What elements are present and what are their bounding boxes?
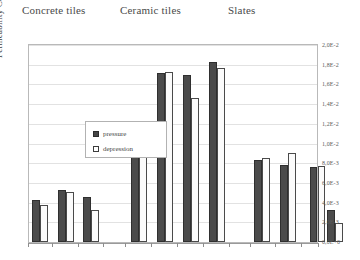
y-axis-title: Permeability Coefficient Φ (0, 0, 4, 58)
bar-pressure (183, 75, 191, 242)
x-axis-tick (203, 243, 204, 247)
legend-swatch-pressure (93, 131, 99, 137)
bar-depression (66, 192, 74, 242)
bar-pressure (32, 200, 40, 242)
group-title-row: Concrete tiles Ceramic tiles Slates (0, 0, 360, 24)
bars-layer (29, 45, 317, 242)
x-axis-tick (250, 243, 251, 247)
legend-swatch-depression (93, 146, 99, 152)
bar-pressure (58, 190, 66, 242)
y-axis-tick-label: 0,0E+0 (322, 239, 340, 245)
bar-pressure (209, 62, 217, 242)
bar-pressure (310, 167, 318, 242)
bar-depression (217, 68, 225, 242)
y-axis-tick-label: 1,2E-2 (322, 121, 339, 127)
x-axis-tick (103, 243, 104, 247)
plot-area: pressure depression (28, 44, 318, 243)
y-axis-tick-label: 6,0E-3 (322, 180, 339, 186)
bar-depression (91, 210, 99, 242)
legend-item-pressure: pressure (93, 128, 126, 139)
chart-legend: pressure depression (85, 121, 167, 158)
y-axis-tick-label: 1,0E-2 (322, 141, 339, 147)
y-axis-tick-label: 1,4E-2 (322, 101, 339, 107)
x-axis-tick (275, 243, 276, 247)
y-axis-tick-label: 2,0E-3 (322, 219, 339, 225)
y-axis-tick-label: 1,6E-2 (322, 81, 339, 87)
legend-label-pressure: pressure (103, 130, 126, 138)
x-axis-tick (301, 243, 302, 247)
x-axis-tick (28, 243, 29, 247)
x-axis-tick (177, 243, 178, 247)
group-title-concrete-tiles: Concrete tiles (22, 4, 86, 16)
bar-pressure (280, 165, 288, 242)
group-title-slates: Slates (228, 4, 255, 16)
legend-label-depression: depression (103, 145, 133, 153)
y-axis-tick-labels: 2,0E-21,8E-21,6E-21,4E-21,2E-21,0E-28,0E… (322, 44, 360, 249)
legend-item-depression: depression (93, 143, 133, 154)
x-axis-tick (151, 243, 152, 247)
x-axis-tick (52, 243, 53, 247)
bar-depression (191, 98, 199, 242)
x-axis-tick (318, 243, 319, 247)
x-axis-tick (125, 243, 126, 247)
x-axis-ticks (28, 243, 318, 251)
bar-pressure (83, 197, 91, 242)
x-axis-tick (78, 243, 79, 247)
permeability-bar-chart: Concrete tiles Ceramic tiles Slates Perm… (0, 0, 360, 260)
y-axis-tick-label: 2,0E-2 (322, 42, 339, 48)
group-title-ceramic-tiles: Ceramic tiles (120, 4, 181, 16)
x-axis-tick (229, 243, 230, 247)
y-axis-tick-label: 1,8E-2 (322, 62, 339, 68)
bar-depression (40, 205, 48, 242)
bar-pressure (254, 160, 262, 242)
y-axis-tick-label: 4,0E-3 (322, 200, 339, 206)
y-axis-tick-label: 8,0E-3 (322, 160, 339, 166)
bar-depression (262, 158, 270, 242)
bar-depression (288, 153, 296, 242)
